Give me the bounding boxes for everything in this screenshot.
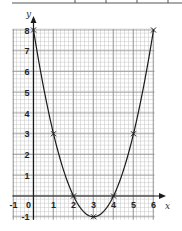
- top-table-border: [12, 0, 182, 3]
- y-axis-arrow-icon: [31, 16, 37, 23]
- x-tick-label: 5: [131, 200, 136, 210]
- y-tick-label: 2: [24, 150, 29, 160]
- x-axis-arrow-icon: [159, 193, 166, 199]
- y-axis-label: y: [25, 9, 32, 19]
- parabola-chart: -10123456 87654321-1 x y: [0, 0, 182, 231]
- x-tick-label: -1: [9, 200, 17, 210]
- x-tick-label: 6: [151, 200, 156, 210]
- x-tick-label: 2: [71, 200, 76, 210]
- x-tick-label: 4: [111, 200, 116, 210]
- axes: [13, 16, 167, 220]
- y-tick-label: -1: [21, 212, 29, 222]
- y-tick-label: 5: [24, 88, 29, 98]
- x-tick-label: 0: [26, 200, 31, 210]
- y-tick-label: 3: [24, 129, 29, 139]
- x-tick-label: 1: [51, 200, 56, 210]
- x-tick-labels: -10123456: [9, 200, 156, 210]
- y-tick-label: 6: [24, 67, 29, 77]
- y-tick-label: 8: [24, 26, 29, 36]
- y-tick-label: 1: [24, 171, 29, 181]
- y-tick-label: 4: [24, 109, 29, 119]
- y-tick-label: 7: [24, 46, 29, 56]
- x-tick-label: 3: [91, 200, 96, 210]
- x-axis-label: x: [165, 201, 170, 211]
